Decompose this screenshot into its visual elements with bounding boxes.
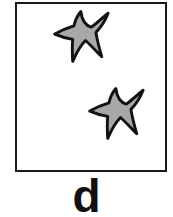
starfish-shape-bottom-right — [88, 85, 146, 143]
shape-layer — [17, 4, 165, 170]
stimulus-box — [15, 2, 167, 172]
panel-caption: d — [0, 174, 173, 217]
starfish-icon — [88, 85, 146, 143]
figure-panel: d — [0, 0, 173, 217]
starfish-shape-top-left — [53, 8, 111, 66]
starfish-icon — [53, 8, 111, 66]
